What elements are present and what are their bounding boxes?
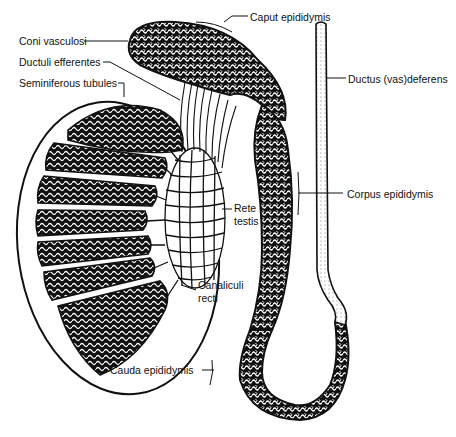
- label-ductus-deferens: Ductus (vas)deferens: [348, 73, 448, 85]
- label-canaliculi-recti-line1: Canaliculi: [198, 279, 244, 291]
- label-cauda-epididymis: Cauda epididymis: [110, 364, 193, 376]
- label-rete-testis-line1: Rete: [234, 202, 256, 214]
- label-rete-testis-line2: testis: [234, 215, 259, 227]
- label-corpus-epididymis: Corpus epididymis: [347, 188, 433, 200]
- label-seminiferous-tubules: Seminiferous tubules: [19, 77, 117, 89]
- label-caput-epididymis: Caput epididymis: [250, 11, 331, 23]
- ductus-deferens: [316, 22, 346, 325]
- label-coni-vasculosi: Coni vasculosi: [19, 35, 87, 47]
- label-canaliculi-recti-line2: recti: [198, 292, 218, 304]
- cauda-epididymis: [240, 320, 349, 420]
- label-ductuli-efferentes: Ductuli efferentes: [19, 56, 101, 68]
